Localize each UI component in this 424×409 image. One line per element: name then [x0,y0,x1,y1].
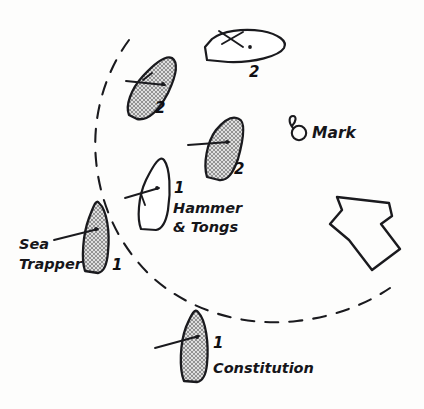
boat-title-line2: & Tongs [173,219,238,235]
boat-title-line1: Hammer [173,200,243,216]
boat-number: 1 [112,256,122,274]
mark-label: Mark [312,124,358,142]
boat-number: 2 [234,160,244,178]
sailing-diagram-svg: Mark 2 2 2 1 Hammer & Tongs Sea Trapper … [0,0,424,409]
boat-title: Constitution [213,360,314,376]
boat-number: 1 [174,179,184,197]
diagram-canvas: Mark 2 2 2 1 Hammer & Tongs Sea Trapper … [0,0,424,409]
boat-title-line2: Trapper [19,256,83,272]
boat-number: 1 [213,334,223,352]
boat-title-line1: Sea [19,236,49,252]
boat-number: 2 [155,99,165,117]
boat-number: 2 [249,63,259,81]
